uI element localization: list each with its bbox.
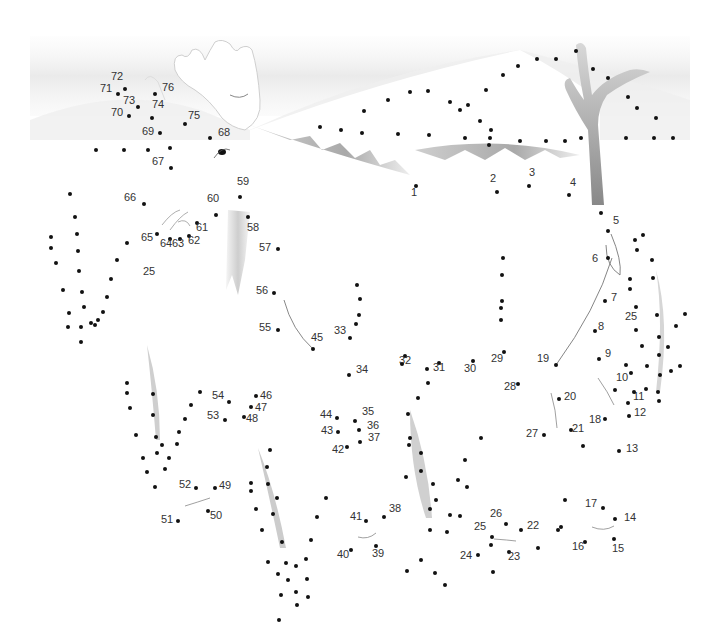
decor-dot[interactable] bbox=[425, 367, 429, 371]
decor-dot[interactable] bbox=[101, 310, 105, 314]
decor-dot[interactable] bbox=[683, 312, 687, 316]
decor-dot[interactable] bbox=[419, 469, 423, 473]
decor-dot[interactable] bbox=[49, 246, 53, 250]
decor-dot[interactable] bbox=[122, 148, 126, 152]
decor-dot[interactable] bbox=[82, 305, 86, 309]
dot-36[interactable] bbox=[357, 428, 361, 432]
dot-66[interactable] bbox=[142, 202, 146, 206]
decor-dot[interactable] bbox=[657, 353, 661, 357]
dot-3[interactable] bbox=[527, 184, 531, 188]
decor-dot[interactable] bbox=[77, 269, 81, 273]
decor-dot[interactable] bbox=[134, 433, 138, 437]
decor-dot[interactable] bbox=[563, 498, 567, 502]
decor-dot[interactable] bbox=[633, 238, 637, 242]
decor-dot[interactable] bbox=[73, 215, 77, 219]
decor-dot[interactable] bbox=[628, 287, 632, 291]
decor-dot[interactable] bbox=[406, 412, 410, 416]
decor-dot[interactable] bbox=[536, 546, 540, 550]
decor-dot[interactable] bbox=[563, 139, 567, 143]
decor-dot[interactable] bbox=[280, 540, 284, 544]
decor-dot[interactable] bbox=[500, 299, 504, 303]
decor-dot[interactable] bbox=[105, 295, 109, 299]
decor-dot[interactable] bbox=[306, 595, 310, 599]
decor-dot[interactable] bbox=[426, 89, 430, 93]
decor-dot[interactable] bbox=[405, 569, 409, 573]
decor-dot[interactable] bbox=[581, 444, 585, 448]
decor-dot[interactable] bbox=[428, 507, 432, 511]
decor-dot[interactable] bbox=[128, 406, 132, 410]
dot-27[interactable] bbox=[542, 433, 546, 437]
dot-18[interactable] bbox=[603, 417, 607, 421]
decor-dot[interactable] bbox=[49, 235, 53, 239]
decor-dot[interactable] bbox=[499, 306, 503, 310]
decor-dot[interactable] bbox=[362, 109, 366, 113]
decor-dot[interactable] bbox=[404, 475, 408, 479]
dot-5[interactable] bbox=[606, 229, 610, 233]
decor-dot[interactable] bbox=[75, 232, 79, 236]
decor-dot[interactable] bbox=[324, 496, 328, 500]
dot-58[interactable] bbox=[246, 215, 250, 219]
decor-dot[interactable] bbox=[624, 136, 628, 140]
dot-19[interactable] bbox=[554, 363, 558, 367]
dot-60[interactable] bbox=[214, 213, 218, 217]
decor-dot[interactable] bbox=[141, 456, 145, 460]
decor-dot[interactable] bbox=[518, 139, 522, 143]
decor-dot[interactable] bbox=[67, 311, 71, 315]
dot-57[interactable] bbox=[276, 247, 280, 251]
decor-dot[interactable] bbox=[109, 277, 113, 281]
decor-dot[interactable] bbox=[650, 258, 654, 262]
decor-dot[interactable] bbox=[286, 578, 290, 582]
decor-dot[interactable] bbox=[355, 283, 359, 287]
dot-2[interactable] bbox=[495, 190, 499, 194]
decor-dot[interactable] bbox=[458, 108, 462, 112]
dot-45[interactable] bbox=[311, 347, 315, 351]
decor-dot[interactable] bbox=[305, 577, 309, 581]
decor-dot[interactable] bbox=[629, 371, 633, 375]
decor-dot[interactable] bbox=[249, 489, 253, 493]
dot-25[interactable] bbox=[490, 535, 494, 539]
decor-dot[interactable] bbox=[168, 146, 172, 150]
decor-dot[interactable] bbox=[249, 481, 253, 485]
decor-dot[interactable] bbox=[315, 515, 319, 519]
decor-dot[interactable] bbox=[606, 76, 610, 80]
decor-dot[interactable] bbox=[294, 564, 298, 568]
dot-35[interactable] bbox=[353, 419, 357, 423]
decor-dot[interactable] bbox=[419, 558, 423, 562]
decor-dot[interactable] bbox=[544, 139, 548, 143]
decor-dot[interactable] bbox=[145, 470, 149, 474]
dot-6[interactable] bbox=[606, 256, 610, 260]
decor-dot[interactable] bbox=[489, 543, 493, 547]
dot-26[interactable] bbox=[504, 522, 508, 526]
decor-dot[interactable] bbox=[669, 369, 673, 373]
decor-dot[interactable] bbox=[408, 436, 412, 440]
decor-dot[interactable] bbox=[489, 128, 493, 132]
dot-43[interactable] bbox=[336, 430, 340, 434]
dot-68[interactable] bbox=[208, 136, 212, 140]
decor-dot[interactable] bbox=[674, 324, 678, 328]
decor-dot[interactable] bbox=[408, 90, 412, 94]
decor-dot[interactable] bbox=[657, 335, 661, 339]
decor-dot[interactable] bbox=[271, 512, 275, 516]
decor-dot[interactable] bbox=[448, 513, 452, 517]
decor-dot[interactable] bbox=[265, 465, 269, 469]
decor-dot[interactable] bbox=[309, 538, 313, 542]
dot-46[interactable] bbox=[254, 394, 258, 398]
dot-33[interactable] bbox=[348, 336, 352, 340]
decor-dot[interactable] bbox=[635, 106, 639, 110]
decor-dot[interactable] bbox=[254, 507, 258, 511]
decor-dot[interactable] bbox=[163, 467, 167, 471]
decor-dot[interactable] bbox=[554, 57, 558, 61]
decor-dot[interactable] bbox=[640, 344, 644, 348]
dot-37[interactable] bbox=[358, 440, 362, 444]
decor-dot[interactable] bbox=[266, 560, 270, 564]
decor-dot[interactable] bbox=[146, 148, 150, 152]
decor-dot[interactable] bbox=[396, 132, 400, 136]
dot-11[interactable] bbox=[626, 401, 630, 405]
decor-dot[interactable] bbox=[644, 387, 648, 391]
decor-dot[interactable] bbox=[624, 363, 628, 367]
decor-dot[interactable] bbox=[579, 136, 583, 140]
decor-dot[interactable] bbox=[501, 256, 505, 260]
decor-dot[interactable] bbox=[160, 443, 164, 447]
decor-dot[interactable] bbox=[339, 128, 343, 132]
decor-dot[interactable] bbox=[153, 485, 157, 489]
